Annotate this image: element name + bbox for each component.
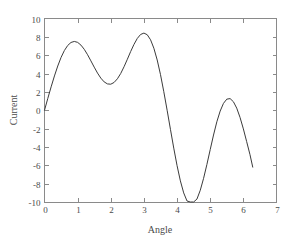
x-tick-label: 7 bbox=[275, 205, 280, 215]
x-axis-title: Angle bbox=[148, 224, 173, 235]
y-tick-label: 8 bbox=[36, 33, 41, 43]
y-axis-tick-labels: 1086420-2-4-6-8-10 bbox=[29, 15, 42, 208]
x-tick-label: 4 bbox=[175, 205, 180, 215]
y-axis-title: Current bbox=[8, 95, 19, 126]
x-tick-label: 3 bbox=[142, 205, 147, 215]
chart-figure: 01234567 1086420-2-4-6-8-10 Angle Curren… bbox=[0, 0, 292, 245]
data-series-current bbox=[45, 33, 253, 202]
y-tick-label: 4 bbox=[36, 70, 41, 80]
y-tick-label: -8 bbox=[33, 180, 41, 190]
x-axis-ticks bbox=[79, 19, 244, 203]
x-tick-label: 2 bbox=[109, 205, 114, 215]
axes-box bbox=[45, 19, 277, 203]
y-tick-label: 10 bbox=[32, 15, 42, 25]
plot-canvas: 01234567 1086420-2-4-6-8-10 Angle Curren… bbox=[0, 0, 292, 245]
y-tick-label: -10 bbox=[29, 198, 41, 208]
y-tick-label: 2 bbox=[36, 88, 41, 98]
x-axis-tick-labels: 01234567 bbox=[43, 205, 280, 215]
x-tick-label: 6 bbox=[241, 205, 246, 215]
y-tick-label: 6 bbox=[36, 51, 41, 61]
y-tick-label: 0 bbox=[36, 106, 41, 116]
y-tick-label: -2 bbox=[33, 125, 41, 135]
axes-frame bbox=[45, 19, 277, 203]
y-axis-ticks bbox=[45, 38, 277, 185]
y-tick-label: -4 bbox=[33, 143, 41, 153]
y-tick-label: -6 bbox=[33, 161, 41, 171]
x-tick-label: 0 bbox=[43, 205, 48, 215]
x-tick-label: 1 bbox=[76, 205, 81, 215]
x-tick-label: 5 bbox=[208, 205, 213, 215]
